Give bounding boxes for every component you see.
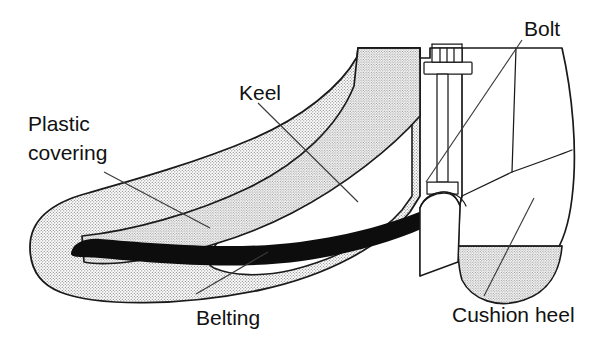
cushion-heel-bowl [458,246,562,303]
label-cushion-heel: Cushion heel [452,303,575,326]
label-plastic-covering-line1: Plastic [28,112,90,135]
heel-block-part [458,48,574,262]
bolt-shank [437,74,448,182]
bolt-washer-plate [424,62,472,74]
label-bolt: Bolt [524,17,560,40]
bolt-post [420,192,460,276]
heel-block-outline [458,48,574,262]
label-plastic-covering-line2: covering [28,141,107,164]
prosthetic-foot-diagram: Plastic covering Keel Bolt Belting Cushi… [0,0,606,350]
cushion-heel-part [458,246,562,303]
label-keel: Keel [239,81,281,104]
figure-root: Plastic covering Keel Bolt Belting Cushi… [0,0,606,350]
label-belting: Belting [196,306,260,329]
